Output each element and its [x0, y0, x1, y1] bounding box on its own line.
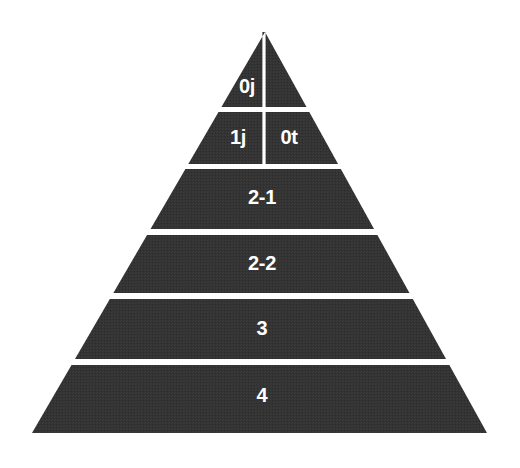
- cell-1j-label: 1j: [230, 126, 246, 148]
- cell-4-label: 4: [257, 384, 269, 406]
- pyramid-tiers: [32, 32, 487, 433]
- cell-3-label: 3: [257, 317, 268, 339]
- cell-0t-label: 0t: [280, 126, 298, 148]
- tier-0-right-segment[interactable]: [265, 32, 307, 107]
- cell-2-1-label: 2-1: [248, 186, 276, 208]
- pyramid-diagram: 0j1j0t2-12-234: [0, 0, 520, 468]
- cell-2-2-label: 2-2: [248, 252, 276, 274]
- tier-1-left-segment[interactable]: [188, 112, 262, 164]
- tier-1-right-segment[interactable]: [266, 112, 338, 164]
- cell-0j-label: 0j: [239, 75, 255, 97]
- pyramid-diagram-canvas: 0j1j0t2-12-234: [0, 0, 520, 468]
